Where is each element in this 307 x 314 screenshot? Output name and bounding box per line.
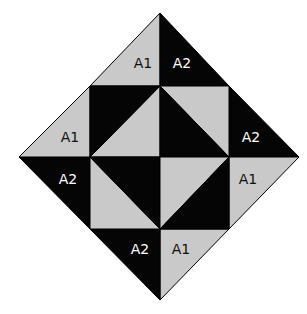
piece-label-left-upper: A1 bbox=[61, 129, 79, 145]
piece-label-top-left: A1 bbox=[134, 55, 152, 71]
piece-label-bottom-left: A2 bbox=[131, 241, 149, 257]
outer-piece-left-lower bbox=[19, 157, 90, 229]
outer-piece-right-lower bbox=[229, 157, 299, 229]
outer-piece-top-right bbox=[160, 13, 229, 86]
piece-label-right-lower: A1 bbox=[239, 171, 257, 187]
piece-label-bottom-right: A1 bbox=[172, 241, 190, 257]
outer-piece-top-left bbox=[90, 13, 160, 86]
piece-label-left-lower: A2 bbox=[59, 171, 77, 187]
outer-piece-bottom-right bbox=[160, 229, 229, 300]
piece-label-right-upper: A2 bbox=[242, 129, 260, 145]
outer-piece-right-upper bbox=[229, 86, 299, 157]
quilt-block-diagram: A1A2A2A1A1A2A2A1 bbox=[0, 0, 307, 314]
piece-label-top-right: A2 bbox=[173, 55, 191, 71]
outer-piece-left-upper bbox=[19, 86, 90, 157]
outer-piece-bottom-left bbox=[90, 229, 160, 300]
